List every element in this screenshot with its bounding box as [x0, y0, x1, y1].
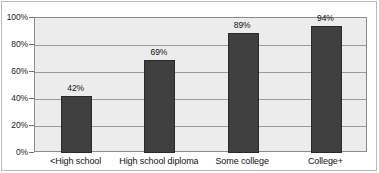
y-tick-label: 0% [16, 147, 28, 157]
bar [61, 96, 92, 153]
bar [228, 33, 259, 153]
bar [144, 60, 175, 153]
y-tick-label: 20% [11, 120, 28, 130]
chart-figure: 0%20%40%60%80%100% 42%69%89%94% <High sc… [0, 0, 379, 173]
y-tick-label: 80% [11, 39, 28, 49]
y-tick-mark [29, 152, 34, 153]
y-tick-label: 100% [7, 12, 28, 22]
bar [311, 26, 342, 153]
bar-value-label: 42% [67, 83, 84, 93]
y-tick-label: 40% [11, 93, 28, 103]
bar-value-label: 89% [234, 20, 251, 30]
x-category-label: High school diploma [119, 156, 198, 166]
x-category-label: <High school [50, 156, 101, 166]
x-category-label: College+ [308, 156, 343, 166]
y-axis: 0%20%40%60%80%100% [0, 17, 28, 152]
bar-value-label: 69% [151, 47, 168, 57]
y-tick-label: 60% [11, 66, 28, 76]
x-category-label: Some college [215, 156, 268, 166]
bar-value-label: 94% [317, 13, 334, 23]
